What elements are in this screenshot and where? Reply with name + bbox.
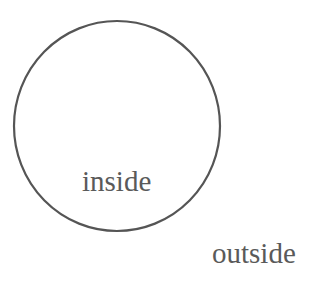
outside-label: outside (212, 239, 296, 268)
set-circle (14, 21, 220, 231)
diagram-canvas: inside outside (0, 0, 319, 290)
inside-label: inside (82, 167, 151, 196)
